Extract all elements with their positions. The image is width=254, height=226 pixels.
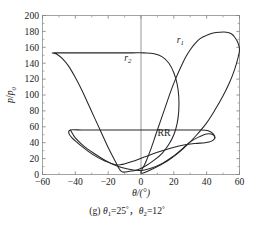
region-label-rr: RR [157, 127, 171, 138]
curve-label-r2: r2 [124, 52, 132, 64]
curve-lower-lobe-right [70, 130, 214, 171]
x-axis-label: θ/(°) [132, 187, 150, 199]
x-tick-label: 60 [235, 176, 245, 187]
figure-caption: (g) θ1=25°，θ2=12° [89, 205, 165, 217]
x-tick-label: 20 [169, 176, 179, 187]
y-tick-label: 60 [29, 121, 39, 132]
y-tick-labels: 020406080100120140160180200 [25, 10, 40, 180]
curve-lower-lobe-left [69, 130, 215, 165]
curve-label-r1: r1 [177, 34, 184, 46]
y-axis-label: p/p0 [4, 86, 17, 104]
curve-annotations: r1r2RR [124, 34, 184, 139]
caption-eq-1: =25 [111, 205, 126, 216]
y-tick-label: 40 [29, 137, 39, 148]
x-tick-label: −20 [101, 176, 116, 187]
chart-svg: −60−40−200204060 02040608010012014016018… [0, 0, 254, 226]
caption-comma: ， [129, 205, 139, 216]
y-tick-label: 180 [25, 26, 40, 37]
y-tick-label: 140 [25, 58, 40, 69]
y-tick-label: 20 [29, 153, 39, 164]
curve-r2 [52, 53, 179, 172]
data-curves [52, 32, 239, 173]
x-tick-label: 40 [202, 176, 212, 187]
y-tick-label: 120 [25, 73, 40, 84]
caption-eq-2: =12 [147, 205, 162, 216]
y-axis-label-den-sub: 0 [10, 86, 17, 90]
caption-index: (g) [89, 205, 100, 217]
curve-r1 [141, 32, 240, 173]
y-tick-label: 80 [29, 105, 39, 116]
x-tick-label: −40 [68, 176, 83, 187]
x-tick-label: 0 [139, 176, 144, 187]
x-tick-labels: −60−40−200204060 [35, 176, 245, 187]
caption-deg-2: ° [162, 205, 165, 212]
svg-text:p/p0: p/p0 [4, 86, 17, 104]
y-tick-label: 0 [34, 169, 39, 180]
y-tick-label: 200 [25, 10, 40, 21]
y-tick-label: 100 [25, 89, 40, 100]
y-tick-label: 160 [25, 42, 40, 53]
figure-container: −60−40−200204060 02040608010012014016018… [0, 0, 254, 226]
